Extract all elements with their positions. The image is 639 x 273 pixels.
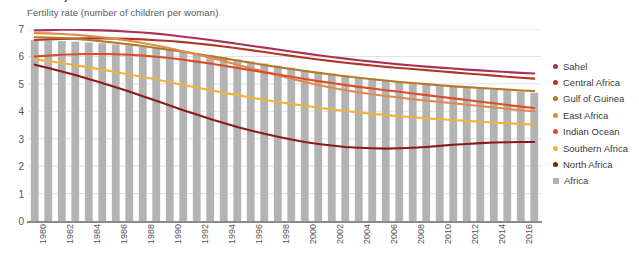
bar [58,41,66,221]
legend-marker-icon [553,113,558,118]
line-series-gulf-of-guinea [35,37,535,91]
bar [193,53,201,221]
bar [152,48,160,221]
bar [395,81,403,221]
legend-item-label: Southern Africa [563,143,628,154]
legend-item-africa[interactable]: Africa [553,173,639,189]
x-axis-tick-label: 2010 [443,224,453,244]
y-axis-tick-label: 3 [8,133,24,144]
x-axis-tick-label: 2000 [308,224,318,244]
plot-area [28,29,541,221]
chart-canvas [28,29,541,221]
x-axis-tick-label: 2004 [362,224,372,244]
x-axis-tick-label: 1990 [173,224,183,244]
legend-marker-icon [553,80,558,85]
legend-item-gulf-of-guinea[interactable]: Gulf of Guinea [553,91,639,107]
bar [247,61,255,221]
legend-item-label: Sahel [563,61,587,72]
bar [166,50,174,221]
y-axis-tick-label: 5 [8,78,24,89]
x-axis-tick-label: 2008 [416,224,426,244]
bar [355,77,363,221]
bar [125,45,133,221]
legend-marker-icon [553,64,558,69]
fertility-rate-chart-figure: Fertility rate in Africa Fertility rate … [0,0,639,273]
x-axis-tick-label: 1984 [92,224,102,244]
x-axis: 1980198219841986198819901992199419961998… [28,224,541,270]
legend-item-north-africa[interactable]: North Africa [553,156,639,172]
y-axis-tick-label: 7 [8,24,24,35]
chart-title: Fertility rate in Africa [26,0,326,2]
x-axis-tick-label: 2016 [524,224,534,244]
bar [287,68,295,221]
x-axis-tick-label: 1994 [227,224,237,244]
legend-item-label: East Africa [563,110,608,121]
legend-item-indian-ocean[interactable]: Indian Ocean [553,124,639,140]
bar [85,42,93,221]
x-axis-tick-label: 1996 [254,224,264,244]
bar [220,57,228,221]
x-axis-tick-label: 1998 [281,224,291,244]
bar [206,55,214,221]
chart-title-clipped: Fertility rate in Africa [26,0,326,2]
x-axis-baseline [27,221,542,223]
legend-marker-icon [553,162,558,167]
bar [31,40,39,221]
bar [260,64,268,221]
y-axis: 01234567 [8,29,24,221]
legend-item-sahel[interactable]: Sahel [553,58,639,74]
legend-item-central-africa[interactable]: Central Africa [553,74,639,90]
x-axis-tick-label: 2002 [335,224,345,244]
x-axis-tick-label: 2012 [470,224,480,244]
bar [233,59,241,221]
legend-marker-icon [553,146,558,151]
bar [368,79,376,221]
chart-subtitle: Fertility rate (number of children per w… [27,7,218,18]
x-axis-tick-label: 1980 [38,224,48,244]
y-axis-tick-label: 2 [8,161,24,172]
legend-item-label: Gulf of Guinea [563,93,624,104]
bar [422,84,430,221]
bar [436,85,444,221]
x-axis-tick-label: 1988 [146,224,156,244]
legend-item-label: North Africa [563,159,613,170]
bar [463,87,471,221]
legend-marker-icon [553,178,559,184]
bar [476,89,484,221]
bar [274,66,282,221]
legend-marker-icon [553,96,558,101]
bar [409,83,417,221]
chart-legend: SahelCentral AfricaGulf of GuineaEast Af… [553,58,639,189]
line-series-sahel [35,30,535,74]
legend-item-label: Africa [564,175,588,186]
x-axis-tick-label: 1982 [65,224,75,244]
bar [382,80,390,221]
bar [71,42,79,221]
x-axis-tick-label: 1992 [200,224,210,244]
y-axis-tick-label: 1 [8,188,24,199]
bar [179,51,187,221]
bar [301,70,309,221]
line-series-indian-ocean [35,54,535,108]
bar [449,86,457,221]
legend-item-east-africa[interactable]: East Africa [553,107,639,123]
legend-marker-icon [553,129,558,134]
x-axis-tick-label: 2014 [497,224,507,244]
y-axis-tick-label: 6 [8,51,24,62]
bar [328,74,336,221]
y-axis-tick-label: 0 [8,216,24,227]
x-axis-tick-label: 1986 [119,224,129,244]
x-axis-tick-label: 2006 [389,224,399,244]
bar [314,72,322,221]
bar [490,90,498,221]
bar [503,91,511,221]
legend-item-southern-africa[interactable]: Southern Africa [553,140,639,156]
legend-item-label: Central Africa [563,77,620,88]
bar [139,47,147,221]
line-series-central-africa [35,38,535,78]
bar [341,75,349,221]
legend-item-label: Indian Ocean [563,126,620,137]
y-axis-tick-label: 4 [8,106,24,117]
